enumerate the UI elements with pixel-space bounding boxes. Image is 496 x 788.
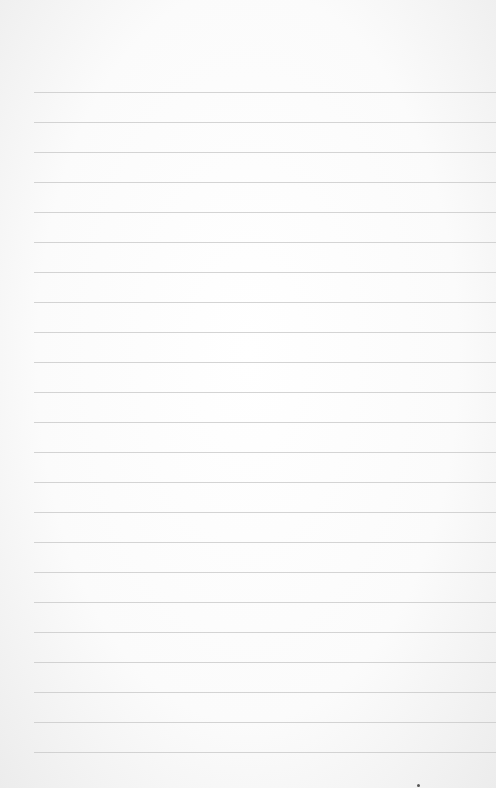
- ruled-line: [34, 212, 496, 213]
- ruled-line: [34, 722, 496, 723]
- ruled-line: [34, 752, 496, 753]
- ruled-line: [34, 392, 496, 393]
- ruled-line: [34, 482, 496, 483]
- ruled-line: [34, 572, 496, 573]
- ruled-line: [34, 362, 496, 363]
- ruled-line: [34, 122, 496, 123]
- ruled-line: [34, 422, 496, 423]
- ruled-line: [34, 332, 496, 333]
- ruled-line: [34, 542, 496, 543]
- ruled-line: [34, 632, 496, 633]
- ruled-line: [34, 452, 496, 453]
- ink-speck: [417, 784, 420, 787]
- ruled-line: [34, 662, 496, 663]
- ruled-line: [34, 242, 496, 243]
- ruled-line: [34, 92, 496, 93]
- ruled-line: [34, 272, 496, 273]
- ruled-line: [34, 602, 496, 603]
- ruled-line: [34, 182, 496, 183]
- lined-paper: [0, 0, 496, 788]
- ruled-line: [34, 152, 496, 153]
- ruled-line: [34, 302, 496, 303]
- ruled-line: [34, 692, 496, 693]
- ruled-line: [34, 512, 496, 513]
